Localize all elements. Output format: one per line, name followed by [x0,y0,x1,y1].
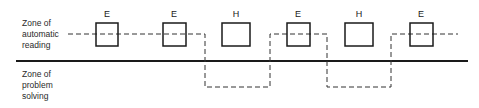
box-e-4 [410,23,433,46]
box-label-e-1: E [104,9,110,19]
box-label-h-1: H [233,9,240,19]
reading-process-diagram [0,0,479,108]
box-label-e-2: E [171,9,177,19]
box-label-h-2: H [356,9,363,19]
box-h-1 [222,23,250,46]
box-label-e-4: E [418,9,424,19]
box-h-2 [345,23,373,46]
box-label-e-3: E [295,9,301,19]
box-e-1 [96,23,118,46]
